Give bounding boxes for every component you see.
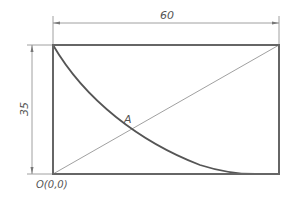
arrowhead-left-icon (53, 22, 60, 25)
drawing-canvas: 60 35 A O(0,0) (0, 0, 299, 207)
height-label: 35 (18, 102, 31, 116)
diagonal-line (53, 45, 279, 174)
arrowhead-top-icon (31, 45, 34, 52)
origin-label: O(0,0) (36, 179, 68, 190)
height-dimension: 35 (18, 45, 53, 174)
arrowhead-right-icon (272, 22, 279, 25)
point-a-label: A (123, 113, 132, 126)
width-dimension: 60 (53, 9, 279, 45)
arrowhead-bottom-icon (31, 167, 34, 174)
width-label: 60 (160, 9, 174, 22)
curve (53, 45, 255, 174)
